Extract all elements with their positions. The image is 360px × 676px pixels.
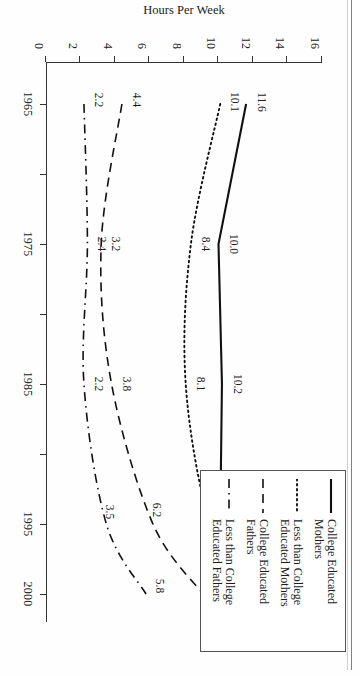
series-line	[83, 104, 146, 594]
x-tick-label: 1965	[20, 92, 35, 117]
data-point-label: 10.1	[229, 92, 241, 112]
data-point-label: 10.0	[229, 234, 241, 254]
data-point-label: 2.2	[93, 377, 105, 391]
scanned-chart-page: 19651975198519952000 0246810121416 Hours…	[0, 0, 360, 676]
data-point-label: 8.4	[200, 237, 212, 251]
y-tick-label: 6	[134, 43, 149, 49]
data-point-label: 8.1	[195, 377, 207, 391]
data-point-label: 3.8	[121, 377, 133, 391]
legend-item: Less than College Educated Fathers	[210, 479, 237, 643]
legend-item-label: Less than College Educated Fathers	[210, 519, 237, 605]
data-point-label: 11.6	[256, 92, 268, 112]
data-point-label: 6.2	[151, 503, 163, 517]
x-tick-label: 2000	[20, 582, 35, 607]
data-point-label: 10.2	[232, 374, 244, 394]
data-point-label: 3.5	[104, 505, 116, 519]
legend-item-label: College Educated Fathers	[243, 519, 270, 604]
y-tick-label: 4	[100, 43, 115, 49]
legend-item-label: Less than College Educated Mothers	[277, 519, 304, 607]
y-tick-label: 10	[203, 37, 218, 49]
legend-line-sample	[256, 479, 270, 513]
y-tick-label: 0	[31, 43, 46, 49]
data-point-label: 3.2	[110, 237, 122, 251]
data-point-label: 5.8	[154, 579, 166, 593]
legend-item-label: College Educated Mothers	[311, 519, 338, 604]
data-point-label: 4.4	[131, 93, 143, 107]
legend-line-sample	[222, 479, 236, 513]
y-tick-label: 8	[169, 43, 184, 49]
data-point-label: 2.4	[96, 237, 108, 251]
series-line	[101, 104, 203, 594]
data-point-label: 2.2	[93, 93, 105, 107]
y-axis-title: Hours Per Week	[143, 3, 224, 18]
x-tick-label: 1995	[20, 512, 35, 537]
page-edge-rule	[351, 0, 352, 670]
y-tick-label: 12	[238, 37, 253, 49]
legend-line-sample	[290, 479, 304, 513]
page-edge-rule-shadow	[347, 0, 348, 670]
legend-line-sample	[324, 479, 338, 513]
legend-item: College Educated Mothers	[311, 479, 338, 643]
chart-legend: College Educated MothersLess than Colleg…	[201, 470, 347, 652]
x-tick-label: 1985	[20, 372, 35, 397]
legend-item: Less than College Educated Mothers	[277, 479, 304, 643]
x-tick-label: 1975	[20, 232, 35, 257]
y-tick-label: 14	[272, 37, 287, 49]
y-tick-label: 16	[307, 37, 322, 49]
y-tick-label: 2	[65, 43, 80, 49]
legend-item: College Educated Fathers	[243, 479, 270, 643]
